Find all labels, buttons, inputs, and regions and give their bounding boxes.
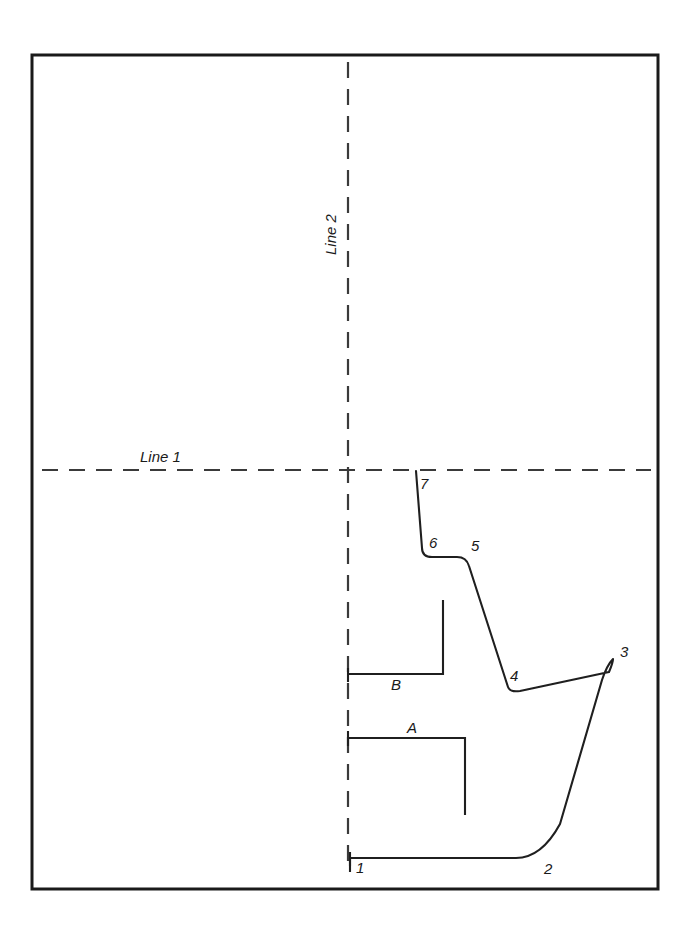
profile-point-label-5: 5: [471, 537, 480, 554]
profile-point-label-3: 3: [620, 643, 629, 660]
region-a-bracket: [348, 738, 465, 815]
region-a-label: A: [406, 719, 417, 736]
profile-point-label-1: 1: [356, 859, 364, 876]
technical-diagram: Line 1 Line 2 1 2 3 4 5 6 7 B A: [0, 0, 691, 926]
region-b-bracket: [348, 600, 443, 674]
section-profile-curve: [350, 471, 613, 866]
region-b-label: B: [391, 676, 401, 693]
profile-point-label-2: 2: [543, 860, 553, 877]
diagram-frame-border: [32, 55, 658, 889]
profile-point-label-4: 4: [510, 667, 518, 684]
profile-point-label-6: 6: [429, 534, 438, 551]
datum-line-1-label: Line 1: [140, 448, 181, 465]
profile-point-label-7: 7: [420, 475, 429, 492]
diagram-canvas: Line 1 Line 2 1 2 3 4 5 6 7 B A: [0, 0, 691, 926]
datum-line-2-label: Line 2: [322, 213, 339, 255]
